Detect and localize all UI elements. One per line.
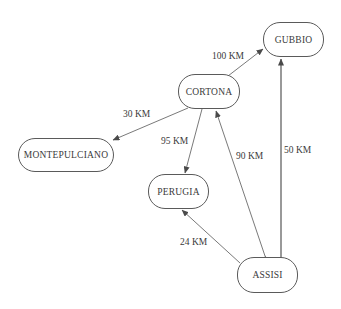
edge-label-95km: 95 KM bbox=[161, 136, 188, 146]
node-montepulciano: MONTEPULCIANO bbox=[18, 138, 114, 172]
edge-label-100km: 100 KM bbox=[212, 51, 244, 61]
node-cortona: CORTONA bbox=[178, 74, 240, 109]
edge-label-50km: 50 KM bbox=[284, 145, 311, 155]
edge-label-24km: 24 KM bbox=[180, 237, 207, 247]
node-gubbio: GUBBIO bbox=[263, 22, 324, 57]
node-perugia: PERUGIA bbox=[148, 174, 209, 209]
edge-label-30km: 30 KM bbox=[123, 109, 150, 119]
edge-assisi-cortona bbox=[216, 111, 265, 256]
node-assisi: ASSISI bbox=[237, 257, 298, 293]
edge-label-90km: 90 KM bbox=[236, 151, 263, 161]
